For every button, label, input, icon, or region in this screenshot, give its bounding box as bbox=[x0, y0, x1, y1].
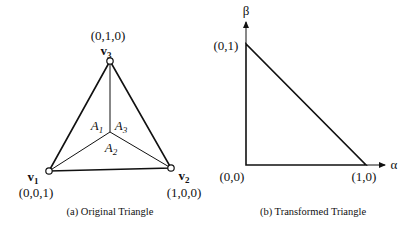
area-a1-label: A1 bbox=[90, 118, 103, 135]
point-1-0-label: (1,0) bbox=[352, 169, 377, 184]
point-0-1-label: (0,1) bbox=[214, 38, 239, 53]
vertex-v2-coord: (1,0,0) bbox=[167, 185, 202, 200]
diagram-canvas: (0,1,0) v3 v1 (0,0,1) v2 (1,0,0) A1 A3 A… bbox=[0, 0, 417, 232]
area-a2-label: A2 bbox=[104, 140, 118, 157]
vertex-v3-coord: (0,1,0) bbox=[91, 28, 126, 43]
transformed-triangle-outline bbox=[246, 44, 366, 165]
area-a3-label: A3 bbox=[114, 118, 128, 135]
subdivision-line-v2 bbox=[110, 132, 171, 168]
beta-axis-label: β bbox=[243, 3, 250, 18]
caption-original-triangle: (a) Original Triangle bbox=[67, 206, 154, 218]
point-0-0-label: (0,0) bbox=[220, 169, 245, 184]
vertex-v1-coord: (0,0,1) bbox=[19, 185, 54, 200]
original-triangle-figure: (0,1,0) v3 v1 (0,0,1) v2 (1,0,0) A1 A3 A… bbox=[19, 28, 202, 218]
vertex-v2-marker bbox=[168, 165, 174, 171]
vertex-v3-label: v3 bbox=[101, 43, 113, 60]
vertex-v1-label: v1 bbox=[28, 169, 40, 186]
transformed-triangle-figure: β α (0,1) (0,0) (1,0) (b) Transformed Tr… bbox=[214, 3, 398, 218]
vertex-v2-label: v2 bbox=[179, 168, 191, 185]
caption-transformed-triangle: (b) Transformed Triangle bbox=[260, 206, 367, 218]
subdivision-line-v1 bbox=[49, 132, 110, 171]
alpha-axis-label: α bbox=[391, 157, 398, 172]
vertex-v1-marker bbox=[46, 168, 52, 174]
